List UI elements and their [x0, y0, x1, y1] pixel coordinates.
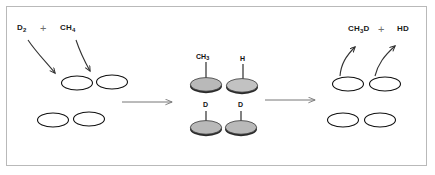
inbound-arrow-ch4 — [76, 40, 90, 71]
product-label-ch3d: CH3D — [348, 24, 370, 33]
surface-site — [74, 112, 105, 126]
reactant-plus-sign: + — [40, 22, 46, 34]
surface-site — [365, 113, 396, 127]
surface-site — [370, 77, 401, 91]
product-plus-sign: + — [378, 23, 384, 35]
surface-site — [97, 75, 128, 89]
stage-intermediate-sites — [190, 62, 258, 136]
occupied-site — [190, 121, 221, 135]
adsorbate-label-ch3: CH3 — [196, 53, 209, 60]
reactant-label-d2: D2 — [17, 23, 27, 32]
product-label-hd: HD — [397, 24, 409, 33]
surface-site — [333, 77, 364, 91]
adsorbate-label-d-right: D — [238, 101, 243, 108]
outbound-arrow-hd — [375, 46, 395, 76]
stage-products-sites — [328, 77, 401, 127]
surface-site — [38, 113, 69, 127]
adsorbate-label-h: H — [240, 55, 245, 62]
reaction-mechanism-figure: D2 + CH4 CH3D + HD CH3 H D D — [0, 0, 435, 175]
reactant-label-ch4: CH4 — [60, 23, 76, 32]
occupied-site — [226, 79, 257, 93]
surface-site — [328, 113, 359, 127]
occupied-site — [225, 121, 256, 135]
adsorbate-label-d-left: D — [203, 101, 208, 108]
stage-reactants-sites — [38, 75, 128, 127]
occupied-site — [190, 78, 221, 92]
surface-site — [62, 76, 93, 90]
inbound-arrow-d2 — [28, 40, 55, 73]
outbound-arrow-ch3d — [340, 47, 355, 76]
